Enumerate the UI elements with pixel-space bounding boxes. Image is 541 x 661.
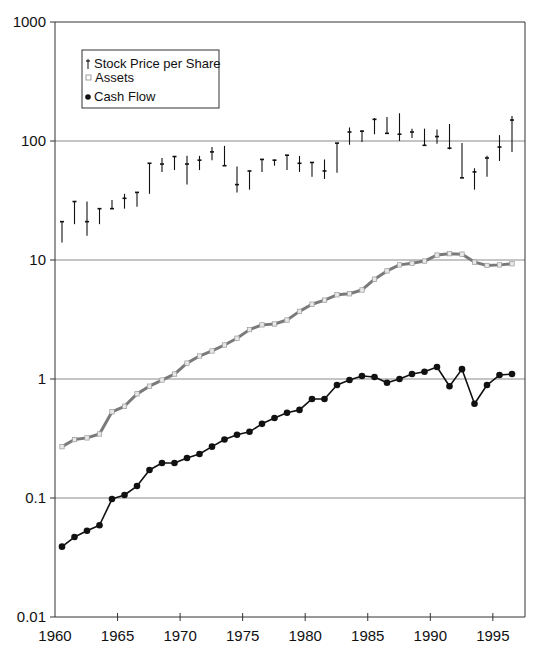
cash-flow-marker <box>146 467 153 474</box>
cash-flow-marker <box>421 368 428 375</box>
assets-marker <box>72 437 76 441</box>
assets-marker <box>172 372 176 376</box>
cash-flow-marker <box>109 496 116 503</box>
cash-flow-marker <box>71 534 78 541</box>
assets-marker <box>210 349 214 353</box>
cash-flow-marker <box>459 366 466 373</box>
stock-assets-cashflow-chart: 10001001010.10.01 1960196519701975198019… <box>0 0 541 661</box>
assets-marker <box>247 327 251 331</box>
assets-marker <box>360 288 364 292</box>
legend-label: Cash Flow <box>94 89 156 104</box>
y-tick-label: 10 <box>29 251 46 268</box>
series-assets <box>60 251 514 448</box>
assets-marker <box>160 378 164 382</box>
cash-flow-marker <box>96 522 103 529</box>
assets-marker <box>472 260 476 264</box>
cash-flow-marker <box>259 421 266 428</box>
cash-flow-marker <box>371 374 378 381</box>
cash-flow-marker <box>446 383 453 390</box>
y-tick-label: 1 <box>38 370 46 387</box>
cash-flow-marker <box>309 396 316 403</box>
assets-marker <box>497 263 501 267</box>
legend-item-stock-price: Stock Price per Share <box>86 56 220 71</box>
y-tick-label: 0.01 <box>17 608 46 625</box>
open-square-icon <box>86 75 91 80</box>
assets-line <box>62 254 512 447</box>
cash-flow-marker <box>396 376 403 383</box>
cash-flow-marker <box>121 492 128 499</box>
y-tick-label: 1000 <box>13 13 46 30</box>
cash-flow-marker <box>384 379 391 386</box>
cash-flow-marker <box>196 451 203 458</box>
assets-marker <box>397 263 401 267</box>
x-tick-label: 1965 <box>101 627 134 644</box>
cash-flow-marker <box>484 382 491 389</box>
cash-flow-marker <box>159 460 166 467</box>
assets-marker <box>122 404 126 408</box>
cash-flow-marker <box>209 443 216 450</box>
assets-marker <box>435 253 439 257</box>
cash-flow-marker <box>59 543 66 550</box>
cash-flow-marker <box>134 483 141 490</box>
cash-flow-marker <box>359 373 366 380</box>
assets-marker <box>60 444 64 448</box>
cash-flow-marker <box>296 407 303 414</box>
y-tick-label: 0.1 <box>25 489 46 506</box>
cash-flow-marker <box>471 400 478 407</box>
cash-flow-marker <box>409 371 416 378</box>
cash-flow-marker <box>171 460 178 467</box>
assets-marker <box>410 261 414 265</box>
legend-label: Assets <box>95 70 135 85</box>
assets-marker <box>260 323 264 327</box>
cash-flow-marker <box>234 431 241 438</box>
cash-flow-marker <box>284 409 291 416</box>
legend: Stock Price per Share Assets Cash Flow <box>82 50 220 108</box>
x-tick-label: 1995 <box>476 627 509 644</box>
assets-marker <box>85 436 89 440</box>
assets-marker <box>347 292 351 296</box>
x-tick-label: 1990 <box>414 627 447 644</box>
x-tick-label: 1980 <box>289 627 322 644</box>
assets-marker <box>297 309 301 313</box>
assets-marker <box>97 432 101 436</box>
cash-flow-marker <box>246 429 253 436</box>
x-tick-label: 1985 <box>351 627 384 644</box>
y-tick-label: 100 <box>21 132 46 149</box>
x-tick-label: 1975 <box>226 627 259 644</box>
assets-marker <box>510 262 514 266</box>
cash-flow-marker <box>334 382 341 389</box>
cash-flow-marker <box>184 455 191 462</box>
assets-marker <box>185 361 189 365</box>
assets-marker <box>197 354 201 358</box>
assets-marker <box>310 302 314 306</box>
cash-flow-marker <box>271 415 278 422</box>
assets-marker <box>285 318 289 322</box>
cash-flow-marker <box>509 371 516 378</box>
assets-marker <box>147 384 151 388</box>
legend-label: Stock Price per Share <box>94 56 220 71</box>
assets-marker <box>135 392 139 396</box>
assets-marker <box>222 343 226 347</box>
assets-marker <box>447 251 451 255</box>
cash-flow-marker <box>346 377 353 384</box>
cash-flow-marker <box>84 528 91 535</box>
filled-circle-icon <box>85 94 91 100</box>
legend-item-cash-flow: Cash Flow <box>85 89 156 104</box>
y-axis-tick-labels: 10001001010.10.01 <box>13 13 46 625</box>
cash-flow-marker <box>321 396 328 403</box>
series-cash-flow <box>59 364 516 550</box>
assets-marker <box>385 269 389 273</box>
cash-flow-marker <box>434 364 441 371</box>
cash-flow-line <box>62 367 512 547</box>
x-tick-label: 1970 <box>163 627 196 644</box>
assets-marker <box>372 277 376 281</box>
assets-marker <box>485 263 489 267</box>
assets-marker <box>272 322 276 326</box>
cash-flow-marker <box>221 436 228 443</box>
assets-marker <box>460 252 464 256</box>
assets-marker <box>110 410 114 414</box>
assets-marker <box>422 259 426 263</box>
assets-marker <box>322 298 326 302</box>
x-axis-tick-labels: 19601965197019751980198519901995 <box>38 627 509 644</box>
assets-marker <box>335 293 339 297</box>
